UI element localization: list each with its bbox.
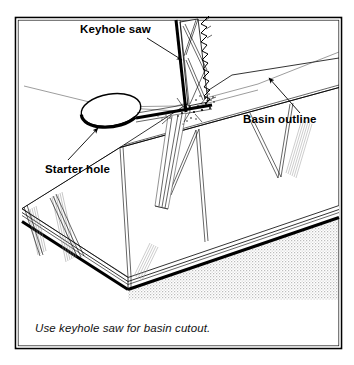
illustration-canvas: Keyhole saw Basin outline Starter hole U… — [0, 0, 354, 365]
label-basin-outline: Basin outline — [243, 113, 317, 125]
label-keyhole-saw: Keyhole saw — [80, 23, 151, 35]
label-starter-hole: Starter hole — [45, 163, 110, 175]
figure-caption: Use keyhole saw for basin cutout. — [35, 322, 210, 334]
figure-background — [0, 0, 354, 365]
illustration-figure: Keyhole saw Basin outline Starter hole U… — [0, 0, 354, 365]
